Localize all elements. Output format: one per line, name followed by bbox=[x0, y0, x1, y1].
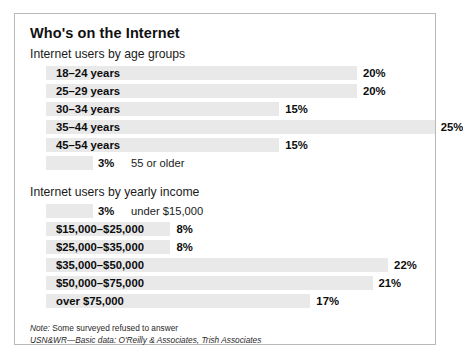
bar-row: 35–44 years25% bbox=[30, 119, 429, 137]
bar-category-label: 18–24 years bbox=[56, 66, 120, 80]
bar-category-label: $50,000–$75,000 bbox=[56, 276, 144, 290]
bar-fill bbox=[46, 204, 93, 218]
bar-category-label: 35–44 years bbox=[56, 120, 120, 134]
bar-row: 18–24 years20% bbox=[30, 65, 429, 83]
note-line-disclaimer: Note: Some surveyed refused to answer bbox=[30, 322, 429, 334]
bar-value-label: 15% bbox=[285, 138, 308, 152]
bar-category-label: 25–29 years bbox=[56, 84, 120, 98]
bar-category-label: $35,000–$50,000 bbox=[56, 258, 144, 272]
section-heading-age: Internet users by age groups bbox=[30, 47, 429, 61]
figure-content: Who's on the Internet Internet users by … bbox=[30, 26, 429, 340]
bar-value-label: 3% bbox=[98, 204, 114, 218]
note-text: Some surveyed refused to answer bbox=[52, 323, 178, 333]
bar-value-label: 25% bbox=[441, 120, 463, 134]
bar-value-label: 20% bbox=[363, 66, 386, 80]
bar-category-label: $15,000–$25,000 bbox=[56, 222, 144, 236]
figure-title: Who's on the Internet bbox=[30, 26, 429, 42]
bar-row: 45–54 years15% bbox=[30, 137, 429, 155]
bar-value-label: 20% bbox=[363, 84, 386, 98]
bar-value-label: 15% bbox=[285, 102, 308, 116]
bar-row: 3%55 or older bbox=[30, 155, 429, 173]
section-age-groups: Internet users by age groups 18–24 years… bbox=[30, 47, 429, 173]
bar-category-label: $25,000–$35,000 bbox=[56, 240, 144, 254]
bar-category-label: 30–34 years bbox=[56, 102, 120, 116]
note-prefix: Note: bbox=[30, 323, 50, 333]
section-heading-income: Internet users by yearly income bbox=[30, 185, 429, 199]
bar-row: $15,000–$25,0008% bbox=[30, 221, 429, 239]
note-line-source: USN&WR—Basic data: O'Reilly & Associates… bbox=[30, 334, 429, 346]
bar-category-label: 55 or older bbox=[131, 156, 185, 170]
bar-row: $25,000–$35,0008% bbox=[30, 239, 429, 257]
bar-category-label: 45–54 years bbox=[56, 138, 120, 152]
section-spacer bbox=[30, 173, 429, 185]
bar-value-label: 3% bbox=[98, 156, 114, 170]
section-income: Internet users by yearly income 3%under … bbox=[30, 185, 429, 311]
bar-category-label: over $75,000 bbox=[56, 294, 124, 308]
figure-frame: Who's on the Internet Internet users by … bbox=[14, 13, 436, 345]
bar-fill bbox=[46, 156, 93, 170]
bar-row: 25–29 years20% bbox=[30, 83, 429, 101]
bar-row: 3%under $15,000 bbox=[30, 203, 429, 221]
bar-rows-income: 3%under $15,000$15,000–$25,0008%$25,000–… bbox=[30, 203, 429, 311]
bar-value-label: 17% bbox=[316, 294, 339, 308]
bar-row: over $75,00017% bbox=[30, 293, 429, 311]
bar-value-label: 8% bbox=[176, 222, 192, 236]
bar-row: $35,000–$50,00022% bbox=[30, 257, 429, 275]
bar-value-label: 21% bbox=[379, 276, 402, 290]
bar-row: 30–34 years15% bbox=[30, 101, 429, 119]
bar-category-label: under $15,000 bbox=[131, 204, 203, 218]
bar-value-label: 22% bbox=[394, 258, 417, 272]
source-text: —Basic data: O'Reilly & Associates, Tris… bbox=[67, 335, 261, 345]
bar-rows-age: 18–24 years20%25–29 years20%30–34 years1… bbox=[30, 65, 429, 173]
figure-notes: Note: Some surveyed refused to answer US… bbox=[30, 322, 429, 346]
bar-value-label: 8% bbox=[176, 240, 192, 254]
source-prefix: USN&WR bbox=[30, 335, 67, 345]
bar-row: $50,000–$75,00021% bbox=[30, 275, 429, 293]
